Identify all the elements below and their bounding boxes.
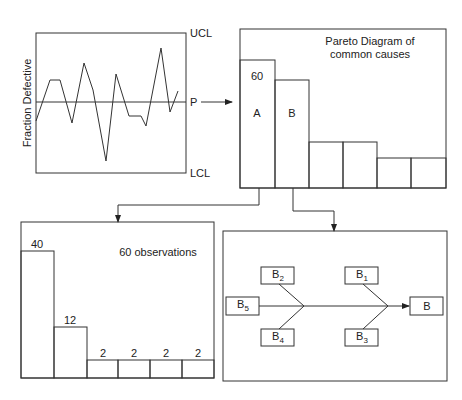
arrow-a-to-pareto [118,188,259,222]
bone-b4 [279,306,304,329]
value-label: 2 [163,348,169,359]
cause-b5-label: B5 [237,299,249,313]
y-axis-label: Fraction Defective [22,59,33,148]
control-chart [36,33,232,173]
bar-12 [54,327,87,378]
bone-b2 [279,284,304,306]
value-label: 2 [131,348,137,359]
cause-b3-label: B3 [356,331,368,345]
bar-2a [87,360,118,378]
value-label: 2 [100,348,106,359]
pareto-title-line2: common causes [330,49,410,60]
bone-b3 [363,306,388,329]
pareto-title-line1: Pareto Diagram of [325,36,414,47]
bar-40 [21,251,54,378]
bar-d [343,142,377,188]
value-label: 12 [64,315,76,326]
bar-2d [182,360,214,378]
center-line-label: P [190,97,197,108]
value-label: 2 [195,348,201,359]
bar-b [275,80,309,188]
bar-2b [118,360,150,378]
bar-2c [150,360,182,378]
bone-b1 [363,284,388,306]
arrow-b-to-fishbone [293,188,334,231]
bar-c [309,142,343,188]
bar-f [411,158,446,188]
fraction-defective-line [36,48,178,161]
control-chart-frame [36,33,186,173]
cause-b4-label: B4 [272,331,284,345]
fishbone-diagram [223,231,447,381]
bar-e [377,158,411,188]
diagram-canvas [0,0,462,400]
ucl-label: UCL [190,28,212,39]
cause-b1-label: B1 [356,269,368,283]
cause-b2-label: B2 [272,269,284,283]
value-label: 40 [31,239,43,250]
bar-b-label: B [288,108,295,119]
lcl-label: LCL [190,168,210,179]
observations-label: 60 observations [119,247,197,258]
effect-b-label: B [423,301,430,312]
bar-a-label: A [253,108,260,119]
bar-a-value: 60 [251,71,263,82]
